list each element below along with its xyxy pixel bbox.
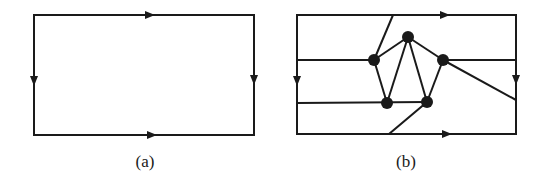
rectangle-a [34,15,254,135]
figure-b [297,15,516,134]
caption-b: (b) [376,152,436,172]
caption-a: (a) [115,152,175,172]
graph-vertices [368,31,449,109]
vertex [437,54,449,66]
vertex [402,31,414,43]
vertex [421,96,433,108]
vertex [368,54,380,66]
figure-a [34,15,254,135]
diagram-canvas [0,0,547,185]
vertex [381,97,393,109]
